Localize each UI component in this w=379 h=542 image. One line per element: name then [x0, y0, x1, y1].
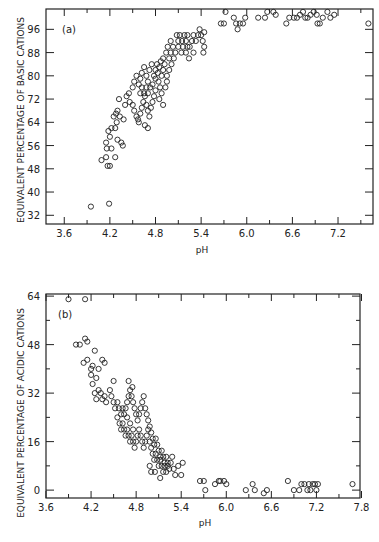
data-point: [297, 488, 302, 493]
x-tick-label: 3.6: [38, 502, 54, 513]
data-point: [163, 85, 168, 90]
data-point: [130, 102, 135, 107]
x-axis-label-b: pH: [199, 518, 211, 528]
data-point: [180, 460, 185, 465]
data-point: [107, 134, 112, 139]
data-point: [201, 478, 206, 483]
data-point: [115, 415, 120, 420]
data-point: [138, 111, 143, 116]
data-point: [202, 30, 207, 35]
data-point: [243, 15, 248, 20]
data-point: [140, 400, 145, 405]
data-point: [350, 482, 355, 487]
data-point: [128, 421, 133, 426]
data-point: [158, 85, 163, 90]
y-tick-label: 48: [27, 164, 40, 175]
data-point: [146, 418, 151, 423]
data-point: [147, 67, 152, 72]
y-tick-label: 0: [34, 485, 40, 496]
chart-panel-b: 3.64.24.85.46.06.67.27.8 016324864 (b) p…: [16, 291, 369, 528]
data-point: [115, 400, 120, 405]
x-axis-ticks-b: 3.64.24.85.46.06.67.27.8: [38, 294, 369, 513]
y-tick-label: 64: [27, 117, 40, 128]
data-point: [138, 76, 143, 81]
y-tick-label: 72: [27, 94, 40, 105]
data-point: [116, 97, 121, 102]
chart-panel-a: 3.64.24.85.46.06.67.2 324048566472808896…: [16, 9, 373, 255]
plot-frame-b: [46, 294, 360, 498]
data-point: [149, 62, 154, 67]
data-point: [90, 363, 95, 368]
data-point: [109, 394, 114, 399]
data-point: [183, 38, 188, 43]
data-point: [104, 155, 109, 160]
data-point: [127, 99, 132, 104]
data-point: [256, 15, 261, 20]
data-point: [243, 488, 248, 493]
data-point: [132, 108, 137, 113]
data-point: [231, 15, 236, 20]
data-point: [235, 27, 240, 32]
data-point: [325, 9, 330, 14]
data-point: [94, 375, 99, 380]
data-point: [170, 454, 175, 459]
data-point: [284, 21, 289, 26]
data-point: [203, 488, 208, 493]
data-point: [104, 400, 109, 405]
y-tick-label: 64: [27, 291, 40, 302]
data-point: [164, 79, 169, 84]
y-tick-label: 48: [27, 340, 40, 351]
data-point: [332, 12, 337, 17]
y-tick-label: 56: [27, 141, 40, 152]
x-axis-ticks-a: 3.64.24.85.46.06.67.2: [56, 9, 361, 239]
data-point: [200, 38, 205, 43]
x-tick-label: 5.4: [193, 228, 209, 239]
data-point: [125, 400, 130, 405]
x-tick-label: 6.6: [284, 228, 300, 239]
data-point: [77, 342, 82, 347]
data-point: [121, 117, 126, 122]
data-point: [85, 357, 90, 362]
data-point: [145, 108, 150, 113]
data-point: [136, 82, 141, 87]
data-point: [141, 99, 146, 104]
data-point: [150, 99, 155, 104]
data-point: [308, 12, 313, 17]
y-tick-label: 32: [27, 388, 40, 399]
x-tick-label: 7.8: [354, 502, 370, 513]
data-point: [202, 44, 207, 49]
data-point: [297, 12, 302, 17]
data-point: [186, 56, 191, 61]
figure-svg: 3.64.24.85.46.06.67.2 324048566472808896…: [0, 0, 379, 542]
data-point: [252, 488, 257, 493]
data-point: [145, 126, 150, 131]
x-tick-label: 4.8: [128, 502, 144, 513]
data-point: [94, 397, 99, 402]
data-point: [191, 50, 196, 55]
data-point: [314, 12, 319, 17]
x-tick-label: 6.0: [239, 228, 255, 239]
scatter-points-a: [88, 9, 371, 209]
data-point: [157, 97, 162, 102]
data-point: [294, 15, 299, 20]
y-tick-label: 40: [27, 187, 40, 198]
data-point: [240, 21, 245, 26]
x-tick-label: 6.0: [218, 502, 234, 513]
data-point: [148, 105, 153, 110]
x-tick-label: 6.6: [263, 502, 279, 513]
x-tick-label: 5.4: [173, 502, 189, 513]
data-point: [141, 445, 146, 450]
data-point: [262, 15, 267, 20]
data-point: [106, 128, 111, 133]
data-point: [88, 204, 93, 209]
data-point: [167, 67, 172, 72]
data-point: [142, 65, 147, 70]
data-point: [169, 62, 174, 67]
plot-frame-a: [46, 9, 373, 224]
data-point: [161, 102, 166, 107]
data-point: [250, 482, 255, 487]
data-point: [144, 73, 149, 78]
data-point: [114, 120, 119, 125]
data-point: [156, 79, 161, 84]
data-point: [113, 155, 118, 160]
